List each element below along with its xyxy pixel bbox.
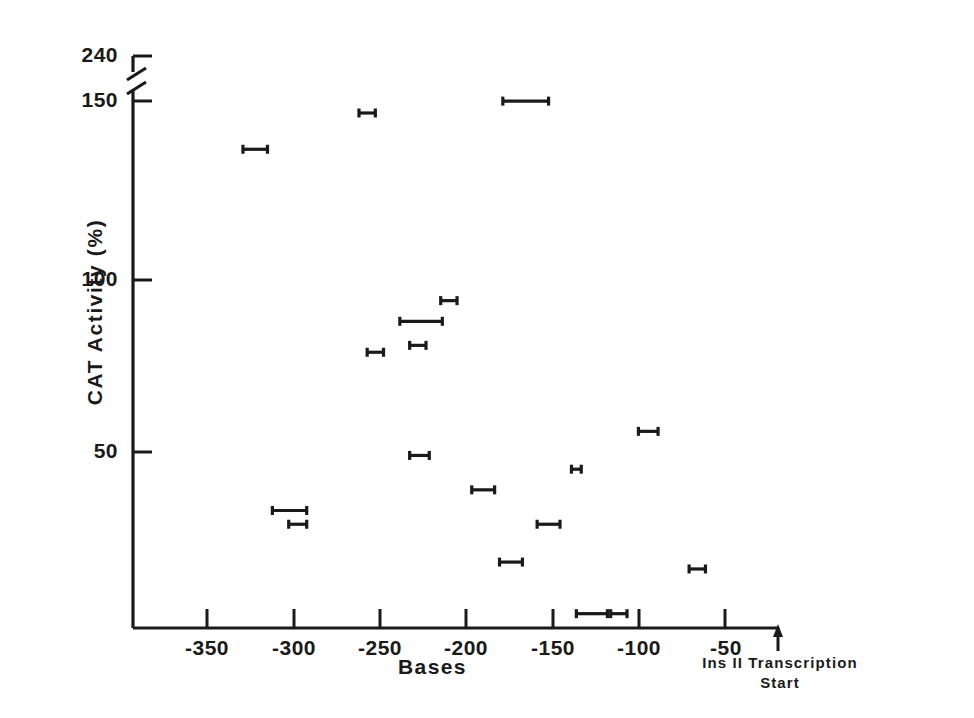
plot-area <box>0 0 974 718</box>
data-point-marker <box>359 109 375 118</box>
axis-lines <box>127 56 783 651</box>
data-point-marker <box>500 558 523 567</box>
data-point-marker <box>689 564 705 573</box>
data-point-marker <box>611 609 627 618</box>
data-point-marker <box>272 506 306 515</box>
x-axis-ticks <box>207 609 725 628</box>
data-point-marker <box>410 451 430 460</box>
data-point-marker <box>638 427 658 436</box>
data-point-marker <box>367 348 383 357</box>
data-point-marker <box>441 296 457 305</box>
data-point-marker <box>243 145 268 154</box>
data-point-marker <box>472 485 495 494</box>
figure-root: CAT Activity (%) Bases 240 150 100 50 -3… <box>0 0 974 718</box>
data-point-marker <box>571 465 581 474</box>
data-point-marker <box>503 97 549 106</box>
data-point-marker <box>400 317 442 326</box>
data-point-marker <box>289 520 307 529</box>
y-axis-ticks <box>133 56 152 452</box>
data-point-marker <box>576 609 607 618</box>
data-point-marker <box>410 341 426 350</box>
data-markers <box>243 97 706 619</box>
data-point-marker <box>537 520 560 529</box>
